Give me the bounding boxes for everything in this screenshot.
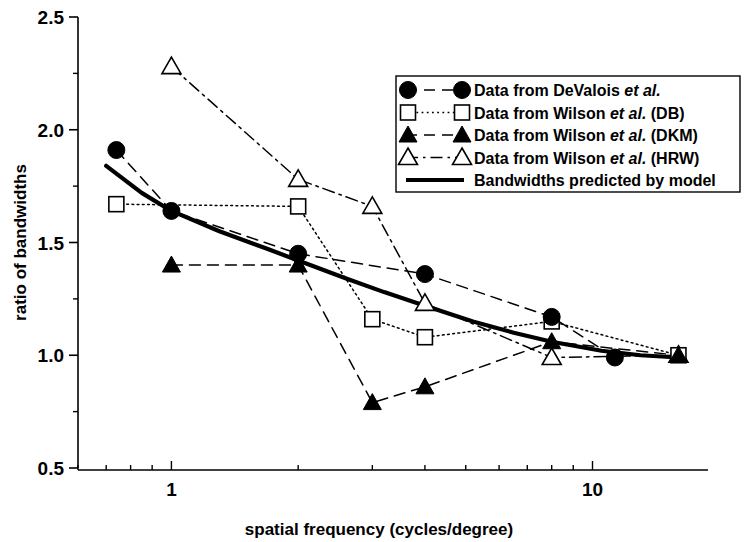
x-tick-label: 1 xyxy=(166,479,177,500)
y-tick-label: 2.0 xyxy=(38,120,64,141)
chart-canvas: 2.52.01.51.00.5110spatial frequency (cyc… xyxy=(0,0,744,542)
data-point-open-square xyxy=(109,197,124,212)
legend-label: Data from Wilson et al. (DB) xyxy=(474,105,685,122)
series-line xyxy=(116,204,678,355)
data-point-filled-triangle xyxy=(363,394,381,410)
y-axis-title: ratio of bandwidths xyxy=(11,164,30,321)
y-tick-label: 2.5 xyxy=(38,7,65,28)
legend-label-main: Bandwidths predicted by model xyxy=(474,172,716,189)
y-tick-label: 0.5 xyxy=(38,458,65,479)
legend-label-italic: et al. xyxy=(610,127,646,144)
legend-label-main: Data from DeValois xyxy=(474,82,624,99)
legend-label-main: Data from Wilson xyxy=(474,127,610,144)
legend-label-tail: (DKM) xyxy=(646,127,698,144)
legend-label: Data from Wilson et al. (HRW) xyxy=(474,150,699,167)
legend-label-italic: et al. xyxy=(610,150,646,167)
data-point-open-square xyxy=(365,312,380,327)
legend-label: Data from Wilson et al. (DKM) xyxy=(474,127,698,144)
legend-marker-filled-circle xyxy=(400,82,417,99)
chart-figure: 2.52.01.51.00.5110spatial frequency (cyc… xyxy=(0,0,744,542)
data-point-filled-circle xyxy=(163,202,180,219)
data-point-filled-circle xyxy=(416,266,433,283)
data-point-filled-circle xyxy=(606,349,623,366)
data-point-open-square xyxy=(291,199,306,214)
y-tick-label: 1.0 xyxy=(38,345,64,366)
data-point-open-triangle xyxy=(162,57,181,74)
legend-label-italic: et al. xyxy=(610,105,646,122)
x-tick-label: 10 xyxy=(582,479,603,500)
data-point-filled-triangle xyxy=(162,256,180,272)
legend-label-main: Data from Wilson xyxy=(474,150,610,167)
legend-marker-open-square xyxy=(455,105,470,120)
series-line xyxy=(106,166,678,358)
legend-marker-open-square xyxy=(401,105,416,120)
data-point-open-triangle xyxy=(542,348,561,365)
legend-label: Bandwidths predicted by model xyxy=(474,172,716,189)
data-point-filled-triangle xyxy=(416,378,434,394)
data-point-filled-circle xyxy=(543,308,560,325)
data-point-filled-circle xyxy=(290,245,307,262)
data-point-filled-circle xyxy=(108,142,125,159)
data-point-open-triangle xyxy=(289,170,308,187)
legend-label-tail: (DB) xyxy=(646,105,684,122)
data-point-open-square xyxy=(417,330,432,345)
legend-label-italic: et al. xyxy=(624,82,660,99)
legend-label-tail: (HRW) xyxy=(646,150,699,167)
legend: Data from DeValois et al.Data from Wilso… xyxy=(396,76,740,192)
legend-label-main: Data from Wilson xyxy=(474,105,610,122)
data-point-open-triangle xyxy=(363,197,382,214)
x-axis-title: spatial frequency (cycles/degree) xyxy=(245,520,513,539)
y-tick-label: 1.5 xyxy=(38,233,65,254)
legend-label: Data from DeValois et al. xyxy=(474,82,661,99)
legend-marker-filled-circle xyxy=(454,82,471,99)
